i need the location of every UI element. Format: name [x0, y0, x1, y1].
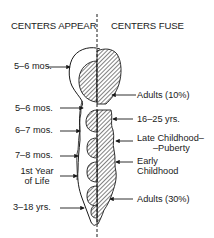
appear-label-segment-4-line2: of Life [16, 177, 58, 187]
fuse-label-segment-3-4: Early Childhood [137, 157, 178, 176]
fuse-label-xiphisternal: Adults (30%) [137, 195, 190, 205]
centers-fuse-header: CENTERS FUSE [111, 21, 184, 31]
centers-appear-header: CENTERS APPEAR [11, 21, 97, 31]
fuse-label-segment-1-2: 16–25 yrs. [137, 115, 180, 125]
appear-label-xiphoid: 3–18 yrs. [13, 203, 51, 213]
appear-label-manubrium: 5–6 mos. [14, 62, 52, 72]
fuse-label-segment-2-3: Late Childhood– –Puberty [137, 134, 204, 153]
appear-label-segment-3: 7–8 mos. [15, 151, 53, 161]
appear-label-segment-4: 1st Year of Life [16, 167, 58, 186]
sternal-body [86, 110, 116, 224]
appear-label-segment-1: 5–6 mos. [15, 104, 53, 114]
appear-label-segment-2: 6–7 mos. [15, 126, 53, 136]
manubrium [79, 49, 121, 104]
fuse-label-segment-2-3-line2: –Puberty [137, 144, 204, 154]
fuse-label-manubriosternal: Adults (10%) [137, 91, 190, 101]
fuse-label-segment-3-4-line2: Childhood [137, 167, 178, 177]
